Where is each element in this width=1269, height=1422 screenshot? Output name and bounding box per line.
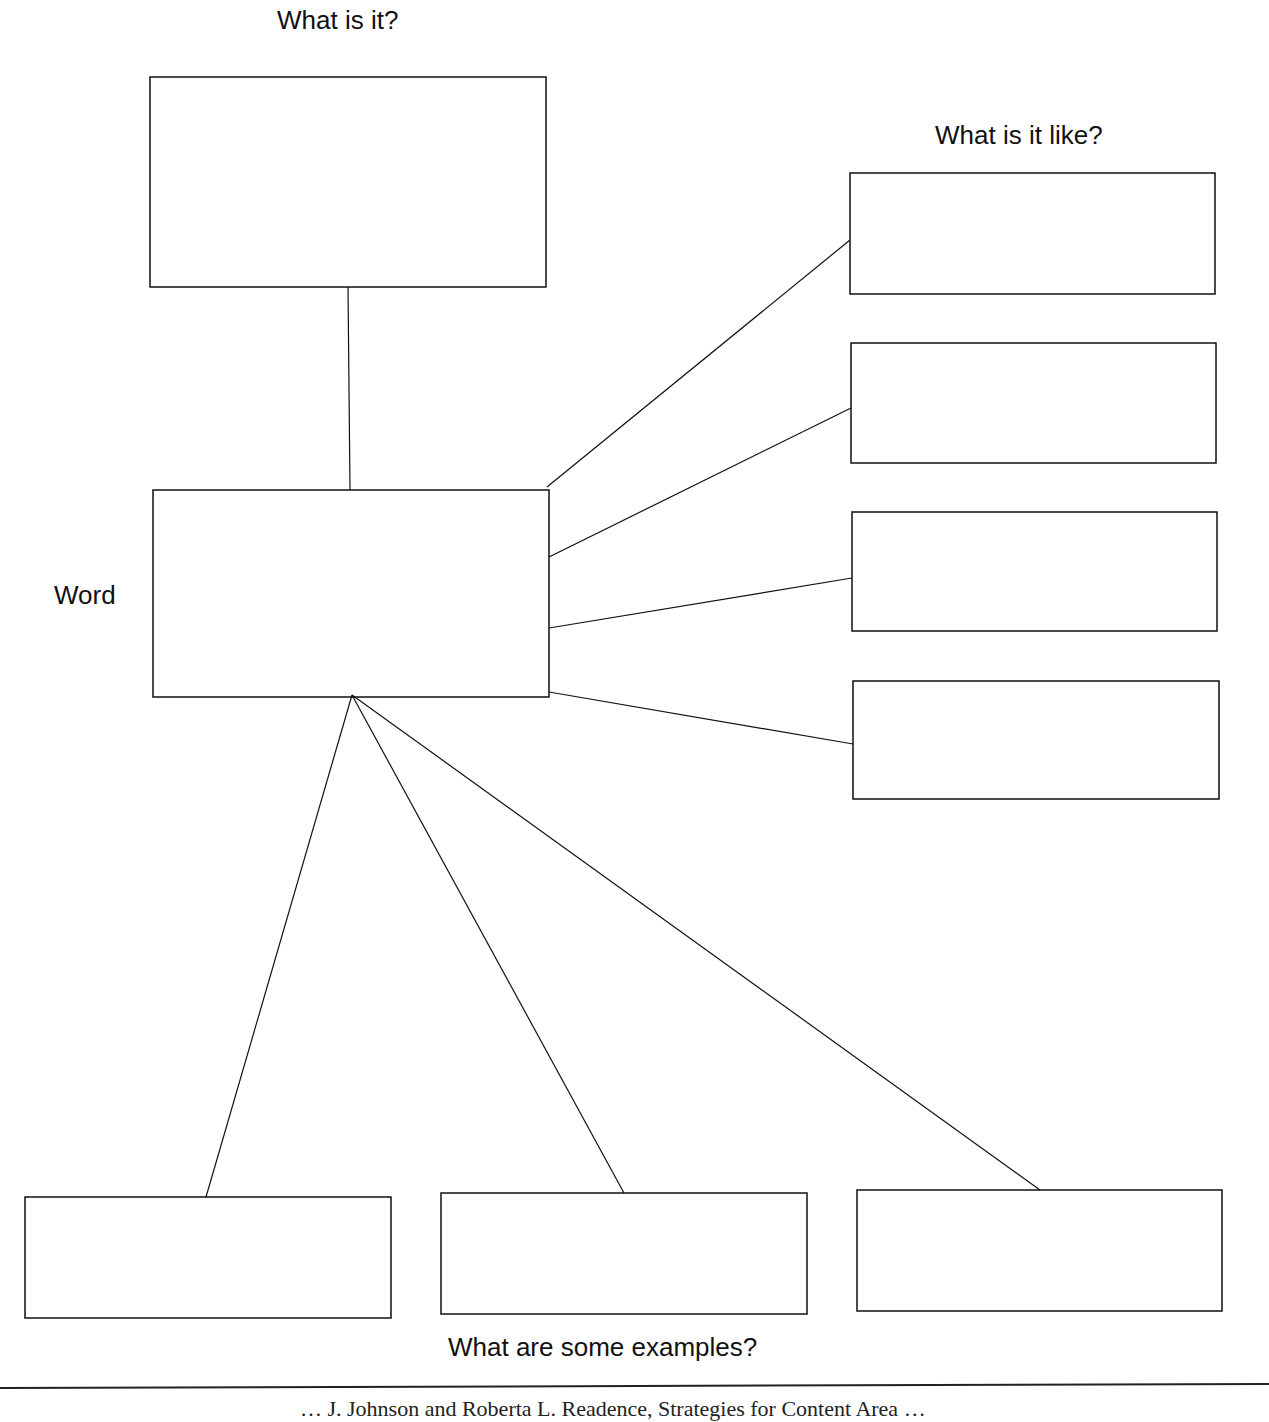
- word-box: [153, 490, 549, 697]
- connector-line: [352, 695, 1040, 1190]
- connector-line: [547, 240, 850, 487]
- connector-line: [352, 695, 624, 1193]
- connector-line: [549, 578, 852, 628]
- footer-citation: … J. Johnson and Roberta L. Readence, St…: [300, 1396, 926, 1422]
- property-box-1: [850, 173, 1215, 294]
- connector-line: [348, 287, 350, 490]
- property-box-3: [852, 512, 1217, 631]
- connector-line: [549, 408, 851, 557]
- example-box-3: [857, 1190, 1222, 1311]
- connector-line: [549, 692, 853, 744]
- label-what-is-it: What is it?: [277, 5, 398, 36]
- label-word: Word: [54, 580, 116, 611]
- connector-line: [206, 695, 352, 1197]
- label-what-is-it-like: What is it like?: [935, 120, 1103, 151]
- label-what-are-some-examples: What are some examples?: [448, 1332, 757, 1363]
- example-box-1: [25, 1197, 391, 1318]
- property-box-4: [853, 681, 1219, 799]
- example-box-2: [441, 1193, 807, 1314]
- definition-box: [150, 77, 546, 287]
- property-box-2: [851, 343, 1216, 463]
- footer-rule: [0, 1384, 1269, 1388]
